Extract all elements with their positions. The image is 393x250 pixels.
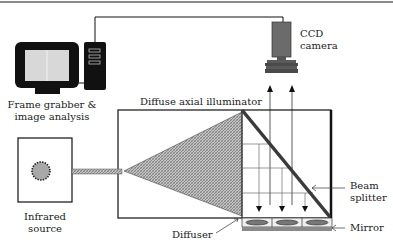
frame-grabber-label: Frame grabber & image analysis	[4, 99, 100, 123]
infrared-source-label-line1: Infrared	[10, 211, 80, 223]
infrared-source	[18, 138, 122, 202]
infrared-source-label: Infrared source	[10, 211, 80, 235]
ccd-camera-label-line2: camera	[300, 40, 338, 52]
light-cone	[124, 110, 242, 218]
beam-splitter-label-line2: splitter	[350, 192, 387, 204]
beam-splitter-label: Beam splitter	[350, 180, 387, 204]
monitor-icon	[15, 42, 84, 94]
frame-grabber-label-line2: image analysis	[4, 111, 100, 123]
diffuse-axial-illuminator-label: Diffuse axial illuminator	[140, 96, 262, 108]
computer-tower-icon	[84, 42, 106, 90]
beam-splitter-label-line1: Beam	[350, 180, 387, 192]
diffuser-label: Diffuser	[172, 229, 213, 241]
mirror-label: Mirror	[350, 222, 384, 234]
ccd-camera-icon	[265, 22, 298, 73]
infrared-source-label-line2: source	[10, 223, 80, 235]
frame-grabber-label-line1: Frame grabber &	[4, 99, 100, 111]
ccd-camera-label-line1: CCD	[300, 28, 338, 40]
diagram-canvas: CCD camera Frame grabber & image analysi…	[0, 0, 393, 250]
sample-tray	[242, 218, 332, 227]
beam-splitter	[242, 110, 330, 217]
data-cable	[95, 17, 283, 42]
mirror	[242, 227, 332, 231]
ccd-camera-label: CCD camera	[300, 28, 338, 52]
